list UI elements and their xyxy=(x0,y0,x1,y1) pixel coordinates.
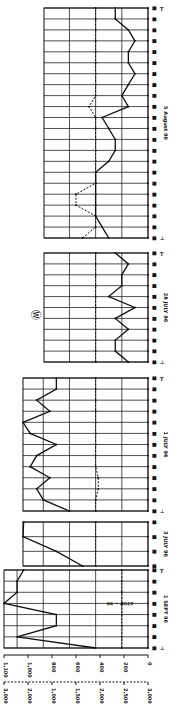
svg-text:■: ■ xyxy=(152,579,158,584)
svg-text:■: ■ xyxy=(152,443,158,448)
svg-text:1,000: 1,000 xyxy=(27,662,33,678)
svg-text:■: ■ xyxy=(152,262,158,267)
svg-text:■: ■ xyxy=(152,50,158,55)
svg-text:1 JULY 96: 1 JULY 96 xyxy=(163,432,169,458)
svg-text:■: ■ xyxy=(152,214,158,219)
svg-text:■: ■ xyxy=(152,520,158,525)
svg-text:■: ■ xyxy=(152,568,158,573)
svg-text:400: 400 xyxy=(99,662,105,673)
svg-text:■: ■ xyxy=(152,549,158,554)
svg-text:■: ■ xyxy=(152,94,158,99)
svg-text:■: ■ xyxy=(152,349,158,354)
svg-text:1,000: 1,000 xyxy=(51,688,57,704)
svg-text:■: ■ xyxy=(152,83,158,88)
svg-text:200: 200 xyxy=(123,662,129,673)
svg-text:■: ■ xyxy=(152,646,158,651)
svg-text:■: ■ xyxy=(152,535,158,540)
svg-text:T: T xyxy=(160,251,164,257)
svg-text:28 JULY 96: 28 JULY 96 xyxy=(163,293,169,323)
svg-text:Ⓦ: Ⓦ xyxy=(30,310,41,320)
panel-3: ■■■■■■■■■■■■■1 JULY 96⊥T xyxy=(22,376,169,514)
svg-text:■: ■ xyxy=(152,39,158,44)
svg-text:■: ■ xyxy=(152,170,158,175)
svg-text:■: ■ xyxy=(152,295,158,300)
svg-text:■: ■ xyxy=(152,431,158,436)
svg-text:■: ■ xyxy=(152,476,158,481)
svg-text:■: ■ xyxy=(152,17,158,22)
panel-5: ■■■■■■■■■■■■■■■■■■■■■■5 August 96⊥T xyxy=(44,6,169,241)
svg-text:■: ■ xyxy=(152,148,158,153)
svg-text:■: ■ xyxy=(152,159,158,164)
svg-text:3 JULY 96: 3 JULY 96 xyxy=(163,531,169,557)
svg-text:3,000: 3,000 xyxy=(147,688,153,704)
svg-text:■: ■ xyxy=(152,360,158,365)
svg-text:■: ■ xyxy=(152,376,158,381)
svg-text:■: ■ xyxy=(152,203,158,208)
svg-text:■: ■ xyxy=(152,509,158,514)
svg-text:■: ■ xyxy=(152,273,158,278)
svg-text:1,500: 1,500 xyxy=(75,688,81,704)
svg-text:1 SEPT 96: 1 SEPT 96 xyxy=(163,595,169,624)
svg-text:■: ■ xyxy=(152,398,158,403)
svg-text:■: ■ xyxy=(152,387,158,392)
svg-text:■: ■ xyxy=(152,6,158,11)
svg-text:1,100: 1,100 xyxy=(3,662,9,678)
svg-text:0: 0 xyxy=(147,662,153,666)
rotated-time-series-chart: ■■■■■■■■1 SEPT 96⊥T■■■■3 JULY 96■■■■■■■■… xyxy=(0,0,188,707)
svg-text:■: ■ xyxy=(152,61,158,66)
svg-text:■: ■ xyxy=(152,192,158,197)
svg-text:■: ■ xyxy=(152,126,158,131)
svg-text:■: ■ xyxy=(152,590,158,595)
svg-text:T: T xyxy=(160,376,164,382)
svg-text:■: ■ xyxy=(152,601,158,606)
svg-text:3,000: 3,000 xyxy=(3,688,9,704)
svg-text:■: ■ xyxy=(152,225,158,230)
svg-text:T: T xyxy=(160,6,164,12)
svg-text:■: ■ xyxy=(152,409,158,414)
svg-text:STOP ← 90: STOP ← 90 xyxy=(107,601,134,606)
svg-text:■: ■ xyxy=(152,635,158,640)
svg-text:■: ■ xyxy=(152,284,158,289)
svg-text:■: ■ xyxy=(152,236,158,241)
svg-text:■: ■ xyxy=(152,72,158,77)
svg-text:■: ■ xyxy=(152,564,158,569)
svg-text:■: ■ xyxy=(152,316,158,321)
svg-text:2,500: 2,500 xyxy=(123,688,129,704)
svg-text:■: ■ xyxy=(152,181,158,186)
svg-text:■: ■ xyxy=(152,624,158,629)
svg-text:■: ■ xyxy=(152,465,158,470)
svg-text:■: ■ xyxy=(152,137,158,142)
svg-text:2,000: 2,000 xyxy=(27,688,33,704)
svg-text:■: ■ xyxy=(152,613,158,618)
svg-text:600: 600 xyxy=(75,662,81,673)
svg-text:■: ■ xyxy=(152,327,158,332)
svg-text:⊥: ⊥ xyxy=(160,508,165,514)
svg-text:■: ■ xyxy=(152,251,158,256)
svg-text:■: ■ xyxy=(152,306,158,311)
svg-text:2,000: 2,000 xyxy=(99,688,105,704)
svg-text:■: ■ xyxy=(152,487,158,492)
panel-4: ■■■■■■■■■■■28 JULY 96⊥T xyxy=(44,251,169,365)
svg-text:■: ■ xyxy=(152,338,158,343)
svg-text:■: ■ xyxy=(152,454,158,459)
panel-2: ■■■■3 JULY 96 xyxy=(22,520,169,569)
svg-text:■: ■ xyxy=(152,420,158,425)
svg-text:T: T xyxy=(160,568,164,574)
svg-text:■: ■ xyxy=(152,28,158,33)
panel-1: ■■■■■■■■1 SEPT 96⊥T xyxy=(3,568,169,651)
svg-text:⊥: ⊥ xyxy=(160,645,165,651)
svg-text:■: ■ xyxy=(152,105,158,110)
svg-text:■: ■ xyxy=(152,498,158,503)
svg-text:5 August 96: 5 August 96 xyxy=(162,106,169,140)
svg-text:800: 800 xyxy=(51,662,57,673)
svg-text:■: ■ xyxy=(152,116,158,121)
svg-text:⊥: ⊥ xyxy=(160,359,165,365)
svg-text:⊥: ⊥ xyxy=(160,235,165,241)
